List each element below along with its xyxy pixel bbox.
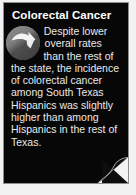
fact-card: Colorectal Cancer Despite lower overall … bbox=[4, 3, 128, 183]
page-curl-decoration bbox=[98, 157, 128, 183]
page-curl-fold bbox=[102, 159, 128, 183]
page-title: Colorectal Cancer bbox=[4, 3, 128, 25]
page-curl-outline bbox=[98, 157, 128, 183]
screen-background: Colorectal Cancer Despite lower overall … bbox=[0, 0, 136, 195]
page-curl-cut bbox=[98, 157, 128, 183]
fact-card-body-wrapper: Despite lower overall rates than the res… bbox=[4, 25, 128, 148]
fact-card-text: Despite lower overall rates than the res… bbox=[4, 25, 128, 148]
